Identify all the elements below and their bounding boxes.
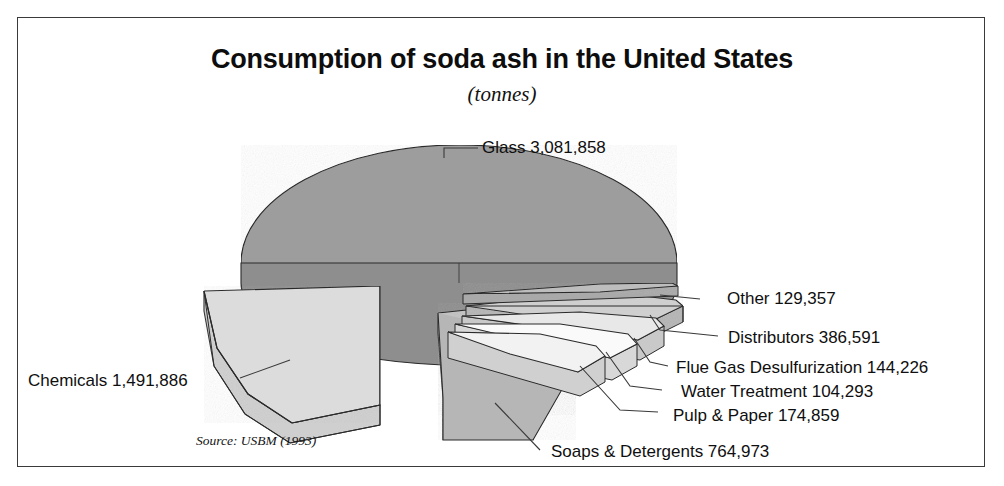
chart-page: Consumption of soda ash in the United St… [0, 0, 1004, 486]
slice-label-soaps-detergents: Soaps & Detergents 764,973 [551, 442, 769, 462]
slice-label-pulp-paper: Pulp & Paper 174,859 [673, 406, 839, 426]
slice-label-glass: Glass 3,081,858 [482, 138, 606, 158]
slice-label-flue-gas-desulfurization: Flue Gas Desulfurization 144,226 [676, 358, 928, 378]
pie-slice-chemicals[interactable] [204, 286, 380, 443]
pie-chart-graphic [0, 0, 1004, 486]
slice-label-distributors: Distributors 386,591 [728, 328, 880, 348]
slice-label-water-treatment: Water Treatment 104,293 [681, 382, 873, 402]
slice-label-other: Other 129,357 [727, 289, 836, 309]
source-note: Source: USBM (1993) [196, 433, 316, 449]
slice-label-chemicals: Chemicals 1,491,886 [28, 371, 188, 391]
